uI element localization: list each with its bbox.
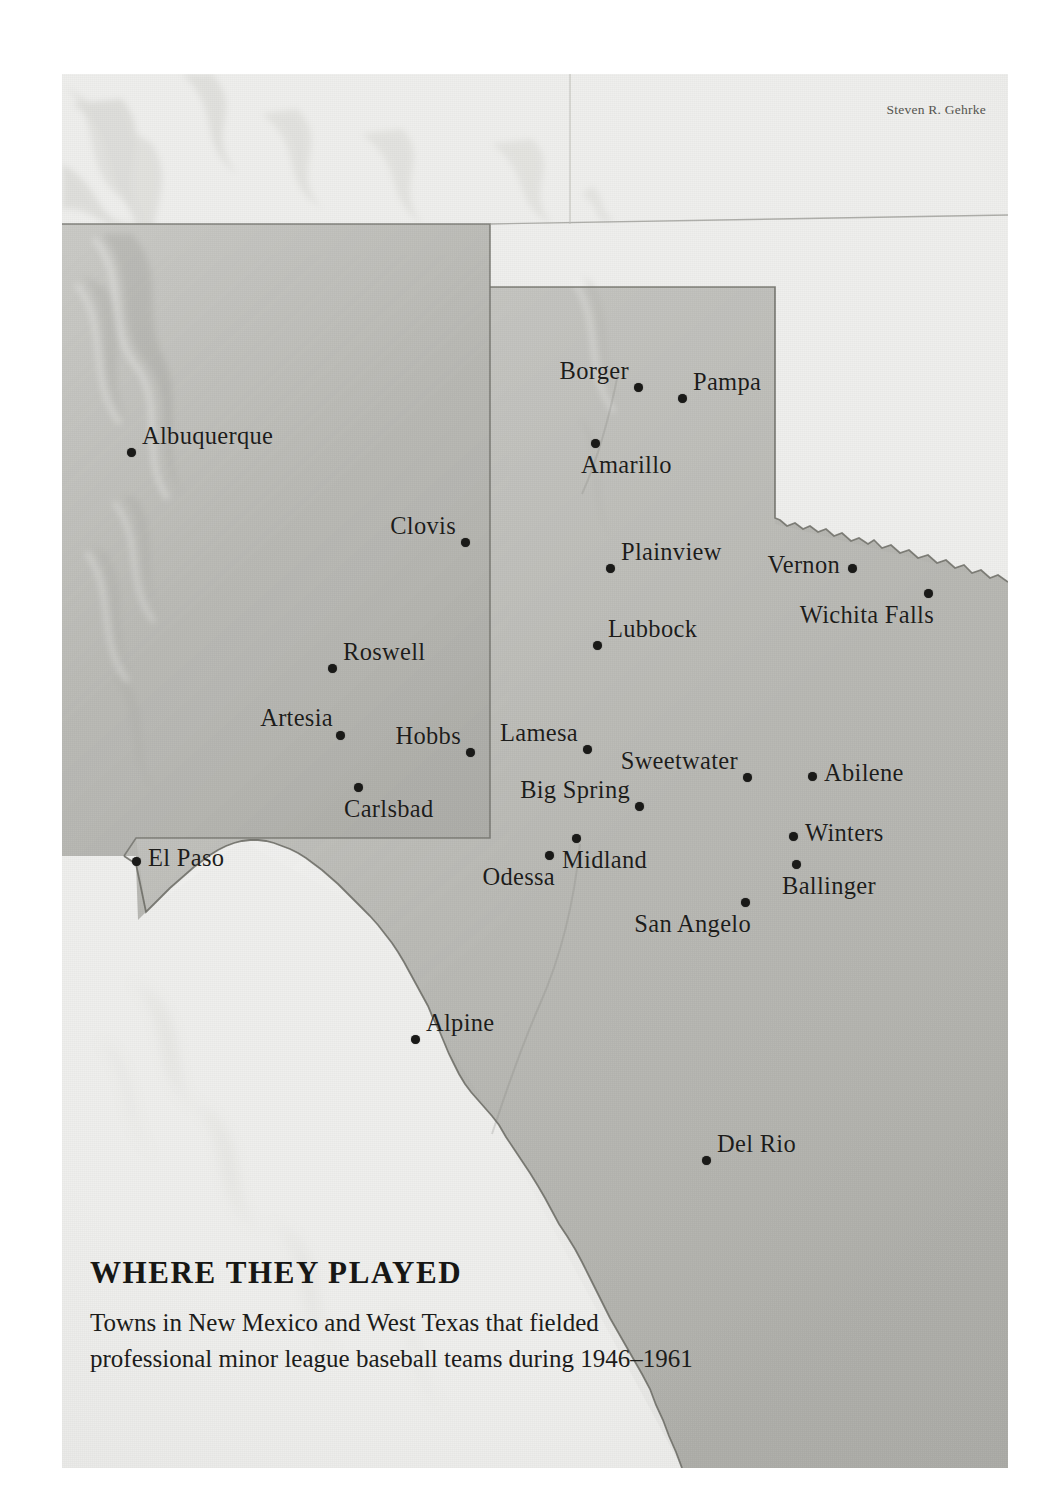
city-dot-icon [808,772,817,781]
city-label: Ballinger [782,872,876,900]
city-dot-icon [354,783,363,792]
caption-block: WHERE THEY PLAYED Towns in New Mexico an… [90,1257,730,1376]
city-dot-icon [924,589,933,598]
city-dot-icon [328,664,337,673]
city-label: Amarillo [581,451,672,479]
city-dot-icon [591,439,600,448]
map-subtitle: Towns in New Mexico and West Texas that … [90,1305,730,1376]
city-label: Lubbock [608,615,697,643]
city-dot-icon [635,802,644,811]
city-dot-icon [606,564,615,573]
city-label: Albuquerque [142,422,273,450]
city-label: Pampa [693,368,761,396]
city-label: Del Rio [717,1130,796,1158]
city-dot-icon [572,834,581,843]
city-label: Roswell [343,638,425,666]
city-label: Winters [805,819,884,847]
city-dot-icon [789,832,798,841]
city-label: Sweetwater [621,747,738,775]
city-label: Midland [562,846,647,874]
city-dot-icon [741,898,750,907]
city-dot-icon [411,1035,420,1044]
city-label: Odessa [482,863,555,891]
city-dot-icon [127,448,136,457]
city-dot-icon [678,394,687,403]
city-label: Hobbs [396,722,461,750]
page-canvas: Steven R. Gehrke AlbuquerqueBorgerPampaA… [0,0,1059,1510]
cartographer-credit: Steven R. Gehrke [886,102,986,118]
city-dot-icon [466,748,475,757]
city-label: Borger [560,357,629,385]
city-label: Plainview [621,538,722,566]
city-label: Vernon [767,551,840,579]
city-label: Big Spring [520,776,630,804]
city-label: Clovis [390,512,456,540]
city-dot-icon [792,860,801,869]
city-label: Lamesa [500,719,578,747]
city-dot-icon [132,857,141,866]
city-label: El Paso [148,844,224,872]
map-title: WHERE THEY PLAYED [90,1257,730,1288]
map-subtitle-line-1: Towns in New Mexico and West Texas that … [90,1305,730,1341]
city-label: Alpine [426,1009,494,1037]
city-label: Carlsbad [344,795,434,823]
city-label: San Angelo [634,910,751,938]
map-panel: Steven R. Gehrke AlbuquerqueBorgerPampaA… [62,74,1008,1468]
city-dot-icon [634,383,643,392]
city-dot-icon [743,773,752,782]
city-label: Artesia [260,704,333,732]
city-dot-icon [461,538,470,547]
city-dot-icon [583,745,592,754]
city-label: Abilene [824,759,904,787]
city-dot-icon [545,851,554,860]
city-dot-icon [593,641,602,650]
city-dot-icon [848,564,857,573]
city-label: Wichita Falls [800,601,934,629]
map-subtitle-line-2: professional minor league baseball teams… [90,1341,730,1377]
city-dot-icon [336,731,345,740]
city-dot-icon [702,1156,711,1165]
